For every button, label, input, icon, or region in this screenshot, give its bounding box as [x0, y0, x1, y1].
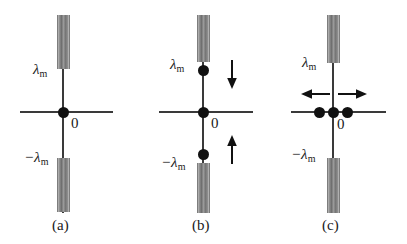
lower-charge-dot	[198, 149, 209, 160]
lower-lambda-label: −λm	[161, 155, 186, 172]
lower-lambda-label: −λm	[24, 150, 49, 167]
right-arrow	[338, 87, 368, 101]
upper-lambda-subscript: m	[309, 61, 317, 72]
origin-charge-dot	[58, 107, 69, 118]
upper-lambda-label: λm	[302, 55, 316, 72]
panel-a-caption: (a)	[52, 218, 69, 233]
lower-rod	[197, 163, 210, 213]
lower-lambda-symbol: −λ	[24, 149, 41, 165]
upper-lambda-subscript: m	[177, 63, 185, 74]
left-arrow	[300, 87, 330, 101]
lower-lambda-subscript: m	[178, 161, 186, 172]
upper-rod	[57, 15, 70, 69]
panel-b-caption: (b)	[192, 218, 210, 233]
lower-lambda-symbol: −λ	[291, 146, 308, 162]
upper-rod	[327, 15, 340, 63]
lower-lambda-label: −λm	[291, 147, 316, 164]
left-charge-dot	[314, 107, 325, 118]
upper-charge-dot	[198, 65, 209, 76]
origin-label: 0	[211, 116, 219, 131]
upper-rod	[197, 15, 210, 62]
lower-lambda-subscript: m	[308, 153, 316, 164]
origin-label: 0	[337, 117, 345, 132]
panel-c-caption: (c)	[322, 218, 339, 233]
down-arrow	[225, 60, 239, 90]
lower-rod	[57, 158, 70, 212]
origin-charge-dot	[198, 107, 209, 118]
upper-lambda-label: λm	[170, 57, 184, 74]
lower-lambda-symbol: −λ	[161, 154, 178, 170]
panel-c: λm −λm 0 (c)	[265, 0, 407, 244]
panel-b: λm −λm 0 (b)	[130, 0, 270, 244]
lower-lambda-subscript: m	[41, 156, 49, 167]
panel-a: λm −λm 0 (a)	[0, 0, 130, 244]
upper-lambda-label: λm	[33, 62, 47, 79]
up-arrow	[225, 134, 239, 164]
upper-lambda-subscript: m	[40, 68, 48, 79]
figure-panels-abc: λm −λm 0 (a) λm −λm 0 (b)	[0, 0, 407, 244]
lower-rod	[327, 158, 340, 213]
origin-label: 0	[71, 116, 79, 131]
